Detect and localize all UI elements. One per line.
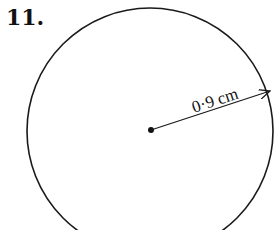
circle-outline	[27, 8, 273, 230]
circle-diagram: 0·9 cm	[0, 0, 280, 230]
radius-label: 0·9 cm	[189, 84, 240, 117]
